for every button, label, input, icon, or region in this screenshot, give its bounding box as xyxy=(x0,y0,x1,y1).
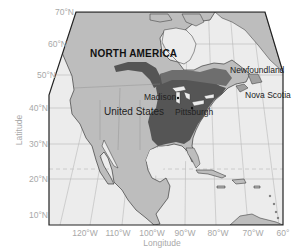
label-nova-scotia: Nova Scotia xyxy=(245,90,291,100)
label-pittsburgh: Pittsburgh xyxy=(175,107,214,117)
label-newfoundland: Newfoundland xyxy=(230,65,285,75)
lon-tick-120: 120°W xyxy=(72,228,98,238)
lon-tick-110: 110°W xyxy=(106,228,131,238)
lon-tick-70: 70°W xyxy=(243,228,264,238)
lon-tick-90: 90°W xyxy=(175,228,196,238)
label-madison: Madison xyxy=(144,92,176,102)
madison-city-dot xyxy=(177,97,179,99)
lat-tick-70: 70°N xyxy=(55,7,74,17)
pittsburgh-city-dot xyxy=(191,107,193,109)
lat-tick-20: 20°N xyxy=(29,174,48,184)
lon-tick-80: 80°W xyxy=(208,228,229,238)
lat-tick-10: 10°N xyxy=(29,210,48,220)
label-united-states: United States xyxy=(104,106,164,117)
lat-tick-30: 30°N xyxy=(29,139,48,149)
y-axis-title: Latitude xyxy=(14,115,24,146)
x-axis-title: Longitude xyxy=(143,238,181,248)
lat-tick-60: 60°N xyxy=(48,39,67,49)
lon-tick-100: 100°W xyxy=(139,228,165,238)
lat-tick-50: 50°N xyxy=(37,70,56,80)
region-title-north-america: NORTH AMERICA xyxy=(90,48,177,59)
lon-tick-60: 60° xyxy=(277,228,290,238)
lat-tick-40: 40°N xyxy=(29,103,48,113)
north-america-map: 70°N 60°N 50°N 40°N 30°N 20°N 10°N 120°W… xyxy=(0,0,300,251)
longitude-ticks: 120°W 110°W 100°W 90°W 80°W 70°W 60° xyxy=(72,228,289,238)
